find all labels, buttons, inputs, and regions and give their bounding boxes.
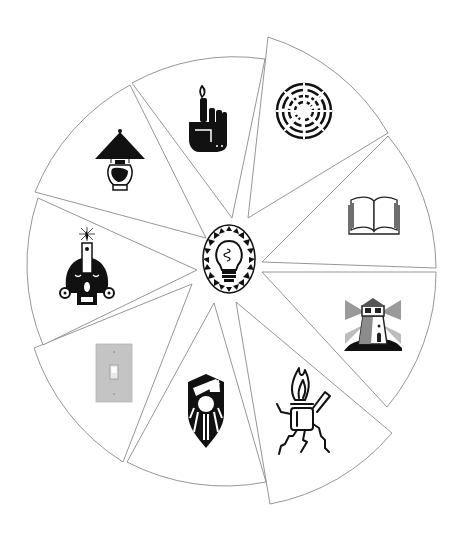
open-book-icon — [349, 197, 399, 234]
radial-spiral-icon — [276, 83, 332, 139]
exploded-wheel-diagram — [0, 0, 460, 536]
light-bulb-icon — [203, 225, 255, 293]
lighthouse-icon — [344, 297, 402, 351]
light-switch-icon — [96, 344, 132, 402]
